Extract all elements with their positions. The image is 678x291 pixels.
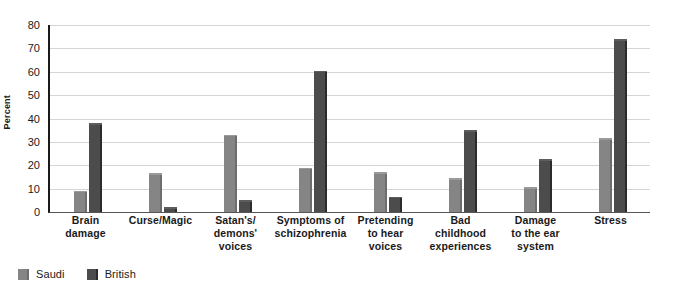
y-tick-label: 40 — [28, 113, 40, 124]
bar-saudi — [599, 138, 612, 212]
bar-group — [599, 25, 627, 212]
y-tick-label: 80 — [28, 20, 40, 31]
bar-saudi — [374, 172, 387, 212]
legend: Saudi British — [18, 268, 136, 280]
bar-group — [374, 25, 402, 212]
bar-british — [614, 39, 627, 212]
bar-british — [389, 197, 402, 212]
bar-group — [449, 25, 477, 212]
bar-saudi — [524, 187, 537, 212]
plot-area — [48, 25, 650, 213]
bar-group — [149, 25, 177, 212]
bar-british — [314, 71, 327, 212]
y-tick-label: 60 — [28, 66, 40, 77]
bar-saudi — [149, 173, 162, 212]
bar-british — [89, 123, 102, 212]
bar-group — [74, 25, 102, 212]
legend-item-saudi: Saudi — [18, 268, 65, 280]
bar-british — [239, 200, 252, 212]
bar-group — [224, 25, 252, 212]
bar-saudi — [299, 168, 312, 212]
bar-group — [524, 25, 552, 212]
bar-group — [299, 25, 327, 212]
y-tick-label: 70 — [28, 43, 40, 54]
y-tick-label: 20 — [28, 160, 40, 171]
bar-british — [164, 207, 177, 212]
bar-saudi — [449, 178, 462, 212]
bar-saudi — [74, 191, 87, 212]
y-axis-title: Percent — [2, 95, 16, 129]
bar-saudi — [224, 135, 237, 212]
bar-british — [539, 159, 552, 212]
bars-layer — [50, 25, 650, 212]
y-tick-label: 50 — [28, 90, 40, 101]
bar-chart: Percent 80 70 60 50 40 30 20 10 0 Braind… — [0, 0, 678, 291]
x-axis-category-labels: BraindamageCurse/MagicSatan's/demons'voi… — [48, 214, 648, 274]
y-axis-tick-labels: 80 70 60 50 40 30 20 10 0 — [16, 0, 44, 291]
legend-label: Saudi — [36, 268, 65, 280]
legend-swatch-icon — [87, 269, 98, 280]
y-tick-label: 30 — [28, 136, 40, 147]
y-tick-label: 10 — [28, 183, 40, 194]
x-axis-label: Stress — [565, 214, 656, 227]
legend-label: British — [105, 268, 136, 280]
legend-swatch-icon — [18, 269, 29, 280]
legend-item-british: British — [87, 268, 136, 280]
bar-british — [464, 130, 477, 212]
